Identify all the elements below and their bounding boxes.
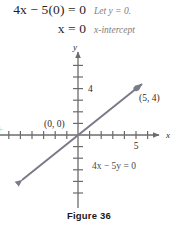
y-axis-label: y	[72, 44, 77, 52]
figure-page: 4x − 5(0) = 0 Let y = 0. x = 0 x-interce…	[0, 0, 178, 230]
point-label-5-4: (5, 4)	[139, 93, 160, 104]
point-marker-5-4	[133, 86, 138, 91]
graph-equation-label: 4x − 5y = 0	[92, 161, 136, 171]
coordinate-graph: y x 4 5 (0, 0) (5, 4) 4x − 5y = 0	[0, 44, 178, 210]
equation-row: x = 0 x-intercept	[0, 21, 178, 37]
worked-example-block: 4x − 5(0) = 0 Let y = 0. x = 0 x-interce…	[0, 2, 178, 40]
y-axis	[73, 52, 83, 208]
x-axis-label: x	[165, 130, 170, 140]
equation-annotation: Let y = 0.	[94, 6, 131, 16]
equation-annotation: x-intercept	[94, 25, 135, 35]
graph-svg: y x 4 5 (0, 0) (5, 4) 4x − 5y = 0	[0, 44, 178, 210]
equation-expression: 4x − 5(0) = 0	[0, 2, 86, 18]
x-tick-label-5: 5	[134, 141, 139, 151]
origin-point-label: (0, 0)	[44, 119, 65, 130]
equation-row: 4x − 5(0) = 0 Let y = 0.	[0, 2, 178, 18]
equation-expression: x = 0	[0, 21, 86, 37]
y-tick-label-4: 4	[88, 84, 93, 94]
figure-caption: Figure 36	[0, 210, 178, 221]
